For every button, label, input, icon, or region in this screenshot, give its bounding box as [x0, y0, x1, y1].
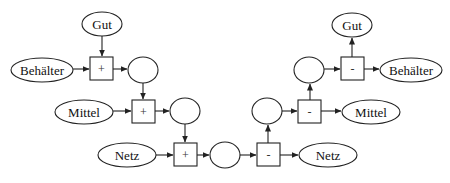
node-label: Behälter	[20, 63, 65, 78]
node-label: Behälter	[389, 63, 434, 78]
operator-symbol: -	[267, 148, 271, 162]
composition-decomposition-diagram: Gut Behälter Mittel Netz Gut Behälter Mi…	[0, 0, 450, 183]
node-label: Mittel	[68, 105, 100, 120]
operator-plus-2: +	[132, 100, 155, 123]
node-gut-in: Gut	[82, 12, 122, 36]
operator-symbol: +	[140, 105, 147, 119]
intermediate-node-5	[294, 57, 324, 83]
operator-symbol: +	[98, 62, 105, 76]
output-nodes: Gut Behälter Mittel Netz	[299, 13, 442, 167]
operator-symbol: +	[182, 148, 189, 162]
edges	[73, 36, 379, 155]
operator-plus-3: +	[174, 143, 197, 166]
operator-symbol: -	[308, 105, 312, 119]
node-label: Mittel	[355, 105, 387, 120]
node-behaelter-in: Behälter	[11, 58, 73, 82]
intermediate-node-1	[128, 57, 158, 83]
node-mittel-out: Mittel	[342, 100, 400, 124]
intermediate-nodes	[128, 57, 324, 168]
intermediate-node-3	[210, 142, 240, 168]
input-nodes: Gut Behälter Mittel Netz	[11, 12, 156, 167]
node-label: Gut	[92, 17, 112, 32]
operator-symbol: -	[351, 62, 355, 76]
operator-minus-3: -	[341, 57, 364, 80]
node-mittel-in: Mittel	[55, 100, 113, 124]
node-netz-in: Netz	[98, 143, 156, 167]
intermediate-node-4	[252, 98, 282, 124]
node-behaelter-out: Behälter	[380, 58, 442, 82]
node-netz-out: Netz	[299, 143, 357, 167]
intermediate-node-2	[170, 98, 200, 124]
node-label: Gut	[342, 18, 362, 33]
node-gut-out: Gut	[332, 13, 372, 37]
node-label: Netz	[316, 148, 341, 163]
node-label: Netz	[115, 148, 140, 163]
operator-plus-1: +	[90, 57, 113, 80]
operator-minus-2: -	[298, 100, 321, 123]
operator-minus-1: -	[257, 143, 280, 166]
